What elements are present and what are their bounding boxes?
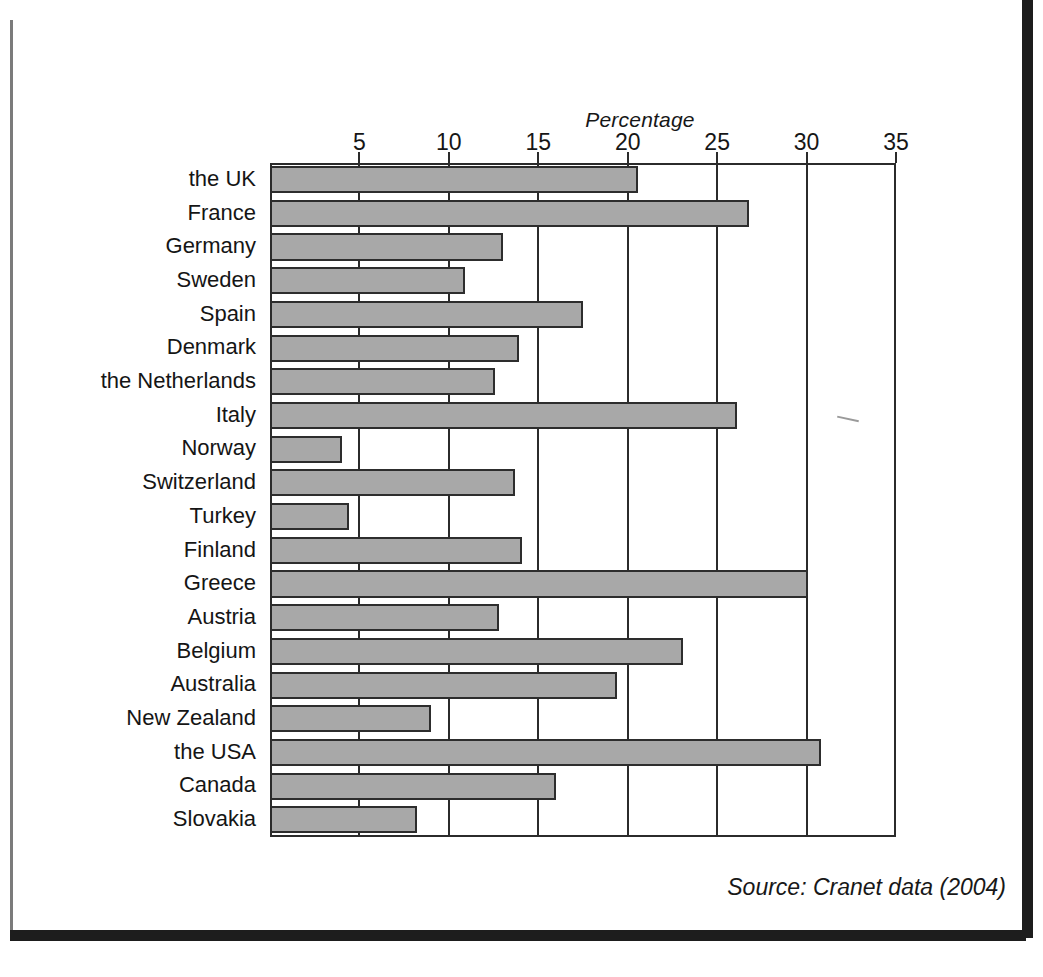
x-tick-mark	[627, 152, 629, 163]
plot-area	[270, 163, 896, 837]
category-label: Norway	[0, 435, 256, 461]
category-label: the Netherlands	[0, 368, 256, 394]
figure-frame-bottom-edge	[10, 930, 1026, 941]
category-label: Denmark	[0, 334, 256, 360]
category-label: Australia	[0, 671, 256, 697]
source-note: Source: Cranet data (2004)	[600, 874, 1006, 901]
figure-page: Percentage 5101520253035 the UKFranceGer…	[0, 0, 1043, 977]
category-label: Austria	[0, 604, 256, 630]
category-label: the USA	[0, 739, 256, 765]
category-label: Canada	[0, 772, 256, 798]
x-tick-mark	[716, 152, 718, 163]
category-label: Germany	[0, 233, 256, 259]
category-label: Turkey	[0, 503, 256, 529]
category-label: Belgium	[0, 638, 256, 664]
x-tick-mark	[806, 152, 808, 163]
figure-frame-right-edge	[1022, 0, 1033, 938]
category-label: the UK	[0, 166, 256, 192]
category-label: Finland	[0, 537, 256, 563]
x-tick-mark	[895, 152, 897, 163]
category-label: Slovakia	[0, 806, 256, 832]
category-label: Greece	[0, 570, 256, 596]
bar-chart: Percentage 5101520253035 the UKFranceGer…	[0, 0, 1020, 930]
category-label: Spain	[0, 301, 256, 327]
category-label: Italy	[0, 402, 256, 428]
x-tick-mark	[448, 152, 450, 163]
plot-border	[270, 163, 896, 837]
x-tick-mark	[358, 152, 360, 163]
category-label: New Zealand	[0, 705, 256, 731]
x-tick-mark	[537, 152, 539, 163]
category-label: France	[0, 200, 256, 226]
category-label: Switzerland	[0, 469, 256, 495]
category-label: Sweden	[0, 267, 256, 293]
